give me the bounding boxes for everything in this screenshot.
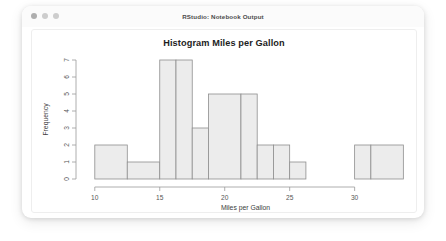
histogram-bar — [160, 60, 176, 179]
plot-output-card: Histogram Miles per Gallon 01234567 1015… — [31, 29, 417, 213]
y-tick-label: 3 — [63, 126, 70, 130]
x-tick-label: 30 — [351, 194, 359, 201]
x-tick-label: 15 — [156, 194, 164, 201]
y-tick-label: 4 — [63, 109, 70, 113]
x-tick-label: 20 — [221, 194, 229, 201]
y-tick-label: 2 — [63, 143, 70, 147]
window-titlebar[interactable]: RStudio: Notebook Output — [22, 6, 424, 27]
histogram-bar — [273, 145, 289, 179]
histogram-bar — [127, 162, 159, 179]
histogram-bar — [290, 162, 306, 179]
y-tick-label: 6 — [63, 75, 70, 79]
zoom-dot-icon[interactable] — [53, 13, 59, 19]
histogram-bar — [355, 145, 371, 179]
histogram-bar — [192, 128, 208, 179]
minimize-dot-icon[interactable] — [42, 13, 48, 19]
y-tick-label: 5 — [63, 92, 70, 96]
x-tick-label: 10 — [91, 194, 99, 201]
y-axis-group: 01234567 — [63, 58, 76, 181]
window-title: RStudio: Notebook Output — [22, 13, 424, 20]
histogram-svg: 01234567 1015202530 Miles per GallonFreq… — [32, 30, 416, 212]
y-tick-label: 1 — [63, 160, 70, 164]
screen-root: RStudio: Notebook Output Histogram Miles… — [0, 0, 446, 241]
x-axis-title: Miles per Gallon — [221, 204, 270, 212]
y-tick-label: 0 — [63, 177, 70, 181]
x-tick-label: 25 — [286, 194, 294, 201]
histogram-bar — [257, 145, 273, 179]
x-axis-group: 1015202530 — [91, 187, 359, 201]
close-dot-icon[interactable] — [31, 13, 37, 19]
histogram-bar — [371, 145, 403, 179]
histogram-bar — [241, 94, 257, 179]
y-tick-label: 7 — [63, 58, 70, 62]
window-traffic-lights — [31, 13, 59, 19]
rstudio-notebook-window: RStudio: Notebook Output Histogram Miles… — [22, 6, 424, 218]
histogram-bar — [95, 145, 127, 179]
histogram-bar — [208, 94, 240, 179]
y-axis-title: Frequency — [42, 103, 50, 136]
histogram-bar — [176, 60, 192, 179]
bars-group — [95, 60, 404, 179]
